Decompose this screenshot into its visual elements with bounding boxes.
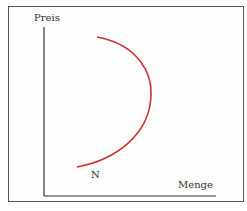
demand-curve-n — [77, 37, 151, 167]
x-axis-label: Menge — [178, 180, 213, 190]
y-axis-label: Preis — [34, 13, 60, 23]
curve-label: N — [91, 170, 100, 180]
